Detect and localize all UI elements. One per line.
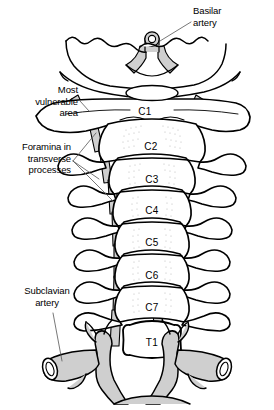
callout-foramina-in-transverse-processes: Foramina in transverse processes <box>1 141 71 176</box>
leader-subclavian-artery <box>53 313 62 361</box>
vertebra-label-c3: C3 <box>138 174 166 185</box>
callout-subclavian-artery: Subclavian artery <box>12 285 82 308</box>
vertebra-label-t1: T1 <box>138 337 166 348</box>
vertebra-label-c2: C2 <box>137 141 165 152</box>
vertebra-label-c1: C1 <box>131 106 159 117</box>
callout-most-vulnerable-area: Most vulnerable area <box>4 84 78 119</box>
vertebra-label-c7: C7 <box>138 302 166 313</box>
aortic-arch <box>114 396 190 404</box>
vertebra-label-c4: C4 <box>138 205 166 216</box>
vertebra-label-c6: C6 <box>138 270 166 281</box>
anatomy-illustration <box>0 0 274 410</box>
cervical-spine-figure: Basilar artery Most vulnerable area Fora… <box>0 0 274 410</box>
callout-basilar-artery: Basilar artery <box>193 5 271 28</box>
vertebra-label-c5: C5 <box>138 237 166 248</box>
basilar-artery-vessel <box>126 32 178 73</box>
